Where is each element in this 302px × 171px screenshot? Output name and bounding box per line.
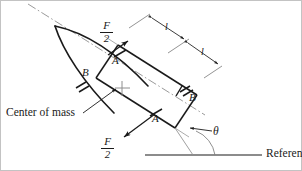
label-angle-theta: θ xyxy=(213,126,219,138)
force-top-denominator: 2 xyxy=(100,33,113,44)
label-dimension-lower: l xyxy=(201,47,204,57)
figure-border xyxy=(1,1,302,171)
label-point-a-bottom: A xyxy=(152,113,159,124)
incline-line xyxy=(175,128,193,155)
label-dimension-upper: l xyxy=(165,22,168,32)
force-bottom-numerator: F xyxy=(101,136,114,147)
label-reference: Reference xyxy=(266,148,302,160)
support-hatch-left-2 xyxy=(79,86,89,92)
dimension-extension-c xyxy=(204,66,222,78)
rail-extension-lower xyxy=(175,128,189,137)
label-point-a-top: A xyxy=(112,55,119,66)
label-point-b-right: B xyxy=(189,92,196,103)
figure-canvas: F 2 F 2 A A B B l l Center of mass θ Ref… xyxy=(0,0,302,171)
cradle-rail-lower xyxy=(96,78,175,128)
force-label-bottom: F 2 xyxy=(101,136,114,160)
angle-leader xyxy=(190,128,212,131)
dimension-extension-b xyxy=(168,39,189,53)
diagram-vector-layer xyxy=(0,0,302,171)
force-top-numerator: F xyxy=(100,20,113,31)
force-label-top: F 2 xyxy=(100,20,113,44)
dimension-span-upper xyxy=(152,18,184,39)
force-bottom-denominator: 2 xyxy=(101,149,114,160)
label-center-of-mass: Center of mass xyxy=(6,107,75,119)
label-point-b-left: B xyxy=(82,67,89,78)
dimension-extension-a xyxy=(129,14,150,28)
force-arrow-bottom xyxy=(124,114,155,137)
support-hatch-left-1 xyxy=(76,82,86,88)
